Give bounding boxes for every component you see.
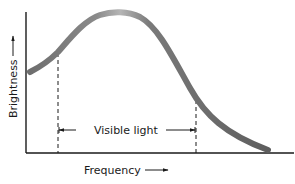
visible-light-label: Visible light: [94, 124, 158, 137]
brightness-frequency-diagram: Visible light Frequency Brightness: [0, 0, 295, 184]
x-axis-label: Frequency: [84, 164, 141, 177]
y-axis-label: Brightness: [7, 59, 20, 118]
